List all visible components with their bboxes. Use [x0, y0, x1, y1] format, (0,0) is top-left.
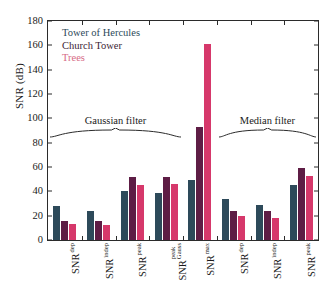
y-tick-right: [314, 45, 318, 46]
x-tick: [82, 21, 83, 25]
x-axis-labels: SNRdepSNRindepSNRpeakSNRpeakGaussSNRmaxS…: [47, 243, 319, 304]
bar: [256, 205, 263, 240]
bar: [306, 176, 313, 240]
y-tick-label: 120: [14, 88, 43, 99]
x-tick-label: SNRpeak: [136, 243, 148, 277]
x-tick: [149, 236, 150, 240]
bar: [264, 211, 271, 240]
bar-group: [188, 21, 211, 240]
x-tick-label: SNRdep: [69, 243, 81, 274]
x-tick-label: SNRindep: [103, 243, 115, 279]
y-tick-label: 80: [14, 136, 43, 147]
x-tick: [251, 21, 252, 25]
x-tick: [149, 21, 150, 25]
x-tick: [217, 236, 218, 240]
bar: [121, 191, 128, 240]
legend-item-2: Trees: [62, 52, 140, 65]
x-tick-label: SNRmax: [204, 243, 216, 276]
legend-label-2: Trees: [62, 52, 85, 63]
bar: [163, 177, 170, 240]
y-tick-right: [314, 167, 318, 168]
bar: [238, 216, 245, 240]
brace-icon: [50, 128, 181, 138]
x-tick: [217, 21, 218, 25]
bar: [272, 218, 279, 241]
bar: [222, 199, 229, 240]
y-tick-label: 20: [14, 209, 43, 220]
bar: [204, 44, 211, 240]
x-tick: [82, 236, 83, 240]
bar: [298, 168, 305, 240]
y-tick-right: [314, 240, 318, 241]
y-tick-right: [314, 69, 318, 70]
bar: [155, 193, 162, 240]
bar: [95, 221, 102, 240]
x-tick: [183, 236, 184, 240]
y-tick-label: 0: [14, 234, 43, 245]
y-tick: [48, 94, 52, 95]
legend-label-1: Church Tower: [62, 40, 122, 51]
annotation-median-label: Median filter: [219, 115, 316, 126]
bar: [196, 127, 203, 240]
y-tick: [48, 118, 52, 119]
y-tick: [48, 240, 52, 241]
y-tick: [48, 167, 52, 168]
annotation-gaussian-label: Gaussian filter: [50, 115, 181, 126]
y-tick: [48, 215, 52, 216]
x-tick: [284, 21, 285, 25]
y-tick-right: [314, 215, 318, 216]
y-tick-label: 180: [14, 15, 43, 26]
x-tick-label: SNRdep: [238, 243, 250, 274]
y-tick: [48, 142, 52, 143]
y-tick-right: [314, 142, 318, 143]
y-tick-label: 140: [14, 63, 43, 74]
x-tick: [284, 236, 285, 240]
legend-label-0: Tower of Hercules: [62, 27, 140, 38]
legend-item-0: Tower of Hercules: [62, 27, 140, 40]
y-tick-label: 160: [14, 39, 43, 50]
x-tick: [116, 236, 117, 240]
bar: [129, 177, 136, 240]
y-tick-right: [314, 94, 318, 95]
y-tick-right: [314, 118, 318, 119]
legend: Tower of Hercules Church Tower Trees: [62, 27, 140, 65]
bar: [103, 225, 110, 240]
legend-item-1: Church Tower: [62, 40, 140, 53]
x-tick-label: SNRpeakGauss: [170, 243, 188, 281]
y-tick: [48, 191, 52, 192]
y-tick-label: 60: [14, 161, 43, 172]
y-tick-label: 40: [14, 185, 43, 196]
y-tick-label: 100: [14, 112, 43, 123]
bar: [69, 224, 76, 240]
x-tick: [116, 21, 117, 25]
bar: [290, 185, 297, 240]
x-tick: [183, 21, 184, 25]
snr-bar-chart: SNR (dB) Gaussian filter Median filter 0…: [0, 0, 332, 304]
bar: [171, 184, 178, 240]
x-tick-label: SNRindep: [271, 243, 283, 279]
bar: [188, 180, 195, 240]
y-tick: [48, 21, 52, 22]
bar: [87, 211, 94, 240]
bar: [53, 206, 60, 240]
bar: [61, 221, 68, 240]
y-tick: [48, 45, 52, 46]
brace-icon: [219, 128, 316, 138]
y-tick: [48, 69, 52, 70]
x-tick-label: SNRpeak: [305, 243, 317, 277]
bar: [137, 185, 144, 240]
y-tick-right: [314, 191, 318, 192]
y-tick-right: [314, 21, 318, 22]
bar: [230, 211, 237, 240]
x-tick: [251, 236, 252, 240]
